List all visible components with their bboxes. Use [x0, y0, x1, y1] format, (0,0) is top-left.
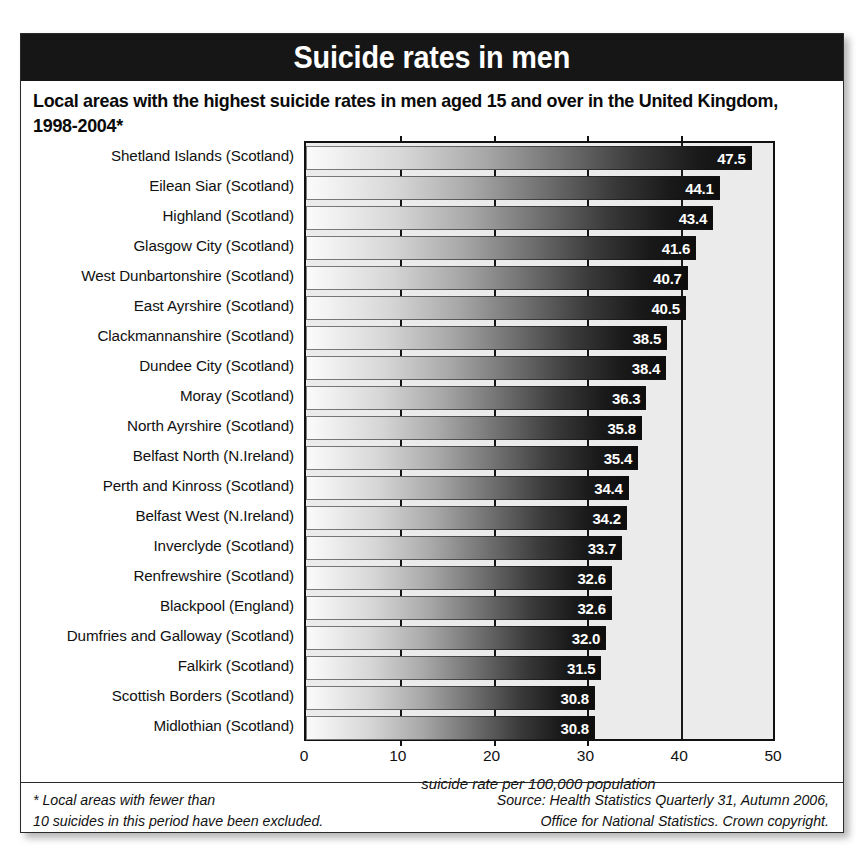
- bar-row[interactable]: 44.1: [306, 176, 775, 200]
- source-line-2: Office for National Statistics. Crown co…: [389, 811, 829, 832]
- category-label: Shetland Islands (Scotland): [19, 147, 294, 164]
- bar[interactable]: 32.6: [306, 566, 612, 590]
- bar[interactable]: 33.7: [306, 536, 622, 560]
- bar-row[interactable]: 47.5: [306, 146, 775, 170]
- bottom-tick-10: [400, 740, 402, 746]
- bar-row[interactable]: 30.8: [306, 686, 775, 710]
- bar[interactable]: 30.8: [306, 686, 595, 710]
- bar-row[interactable]: 36.3: [306, 386, 775, 410]
- bar[interactable]: 30.8: [306, 716, 595, 740]
- category-label: Perth and Kinross (Scotland): [19, 477, 294, 494]
- bar-value-label: 35.8: [607, 420, 635, 437]
- bar[interactable]: 47.5: [306, 146, 752, 170]
- bar-row[interactable]: 43.4: [306, 206, 775, 230]
- bar[interactable]: 34.2: [306, 506, 627, 530]
- bar-row[interactable]: 34.4: [306, 476, 775, 500]
- chart-card: Suicide rates in men Local areas with th…: [20, 33, 844, 833]
- source-line-1: Source: Health Statistics Quarterly 31, …: [389, 790, 829, 811]
- category-label: North Ayrshire (Scotland): [19, 417, 294, 434]
- bar[interactable]: 38.5: [306, 326, 667, 350]
- bar-value-label: 43.4: [679, 210, 707, 227]
- bar-value-label: 40.7: [653, 270, 681, 287]
- bar-value-label: 35.4: [604, 450, 632, 467]
- bar-value-label: 41.6: [662, 240, 690, 257]
- bar-row[interactable]: 35.4: [306, 446, 775, 470]
- x-tick-label-20: 20: [483, 747, 500, 765]
- bar[interactable]: 36.3: [306, 386, 646, 410]
- page-title: Suicide rates in men: [294, 40, 571, 76]
- bar-value-label: 31.5: [567, 660, 595, 677]
- bar[interactable]: 43.4: [306, 206, 713, 230]
- footnote-line-1: * Local areas with fewer than: [33, 790, 363, 811]
- category-label: Dundee City (Scotland): [19, 357, 294, 374]
- plot-right-edge: [773, 141, 775, 741]
- top-tick-20: [494, 136, 496, 143]
- bar-value-label: 34.4: [594, 480, 622, 497]
- category-label: Renfrewshire (Scotland): [19, 567, 294, 584]
- bar[interactable]: 34.4: [306, 476, 629, 500]
- bar[interactable]: 31.5: [306, 656, 601, 680]
- footnote: * Local areas with fewer than 10 suicide…: [33, 790, 363, 832]
- top-tick-40: [681, 136, 683, 143]
- chart-area: Shetland Islands (Scotland)Eilean Siar (…: [21, 141, 845, 766]
- bar-row[interactable]: 40.7: [306, 266, 775, 290]
- category-label: Midlothian (Scotland): [19, 717, 294, 734]
- bar-row[interactable]: 32.0: [306, 626, 775, 650]
- category-label: Inverclyde (Scotland): [19, 537, 294, 554]
- category-label: Eilean Siar (Scotland): [19, 177, 294, 194]
- bar-value-label: 32.0: [572, 630, 600, 647]
- bar-row[interactable]: 31.5: [306, 656, 775, 680]
- bar[interactable]: 40.7: [306, 266, 688, 290]
- bar-value-label: 30.8: [560, 690, 588, 707]
- bar-value-label: 47.5: [717, 150, 745, 167]
- category-label: Glasgow City (Scotland): [19, 237, 294, 254]
- bar[interactable]: 32.6: [306, 596, 612, 620]
- bottom-tick-30: [587, 740, 589, 746]
- category-label: Belfast North (N.Ireland): [19, 447, 294, 464]
- category-label: Blackpool (England): [19, 597, 294, 614]
- x-tick-label-30: 30: [577, 747, 594, 765]
- bar-row[interactable]: 34.2: [306, 506, 775, 530]
- bar-value-label: 44.1: [685, 180, 713, 197]
- category-label: Falkirk (Scotland): [19, 657, 294, 674]
- footnote-line-2: 10 suicides in this period have been exc…: [33, 811, 363, 832]
- plot-area: 47.544.143.441.640.740.538.538.436.335.8…: [304, 141, 773, 741]
- bar-value-label: 36.3: [612, 390, 640, 407]
- category-label: East Ayrshire (Scotland): [19, 297, 294, 314]
- title-bar: Suicide rates in men: [21, 34, 843, 81]
- x-tick-label-0: 0: [300, 747, 309, 765]
- x-tick-label-40: 40: [671, 747, 688, 765]
- bar-value-label: 33.7: [588, 540, 616, 557]
- bar-row[interactable]: 30.8: [306, 716, 775, 740]
- bar[interactable]: 41.6: [306, 236, 696, 260]
- bar-row[interactable]: 38.4: [306, 356, 775, 380]
- category-label-column: Shetland Islands (Scotland)Eilean Siar (…: [21, 141, 304, 741]
- category-label: Highland (Scotland): [19, 207, 294, 224]
- bar-row[interactable]: 32.6: [306, 566, 775, 590]
- bar-row[interactable]: 38.5: [306, 326, 775, 350]
- chart-subtitle: Local areas with the highest suicide rat…: [33, 88, 809, 138]
- bar-value-label: 30.8: [560, 720, 588, 737]
- x-tick-label-10: 10: [389, 747, 406, 765]
- bar-row[interactable]: 32.6: [306, 596, 775, 620]
- bar-row[interactable]: 35.8: [306, 416, 775, 440]
- bar[interactable]: 35.4: [306, 446, 638, 470]
- bar[interactable]: 38.4: [306, 356, 666, 380]
- bar[interactable]: 32.0: [306, 626, 606, 650]
- bar-row[interactable]: 41.6: [306, 236, 775, 260]
- bar-value-label: 34.2: [592, 510, 620, 527]
- bar[interactable]: 40.5: [306, 296, 686, 320]
- bar-row[interactable]: 33.7: [306, 536, 775, 560]
- bar-value-label: 32.6: [577, 600, 605, 617]
- category-label: West Dunbartonshire (Scotland): [19, 267, 294, 284]
- category-label: Scottish Borders (Scotland): [19, 687, 294, 704]
- category-label: Dumfries and Galloway (Scotland): [19, 627, 294, 644]
- category-label: Belfast West (N.Ireland): [19, 507, 294, 524]
- bar[interactable]: 44.1: [306, 176, 720, 200]
- bottom-tick-20: [494, 740, 496, 746]
- top-tick-10: [400, 136, 402, 143]
- x-tick-label-50: 50: [764, 747, 781, 765]
- bar-row[interactable]: 40.5: [306, 296, 775, 320]
- bar[interactable]: 35.8: [306, 416, 642, 440]
- category-label: Moray (Scotland): [19, 387, 294, 404]
